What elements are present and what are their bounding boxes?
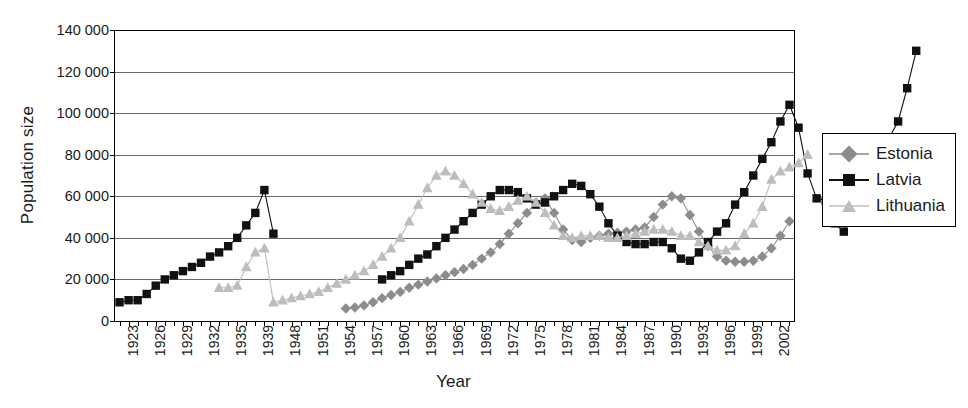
data-point: [476, 253, 486, 263]
chart-legend: Estonia Latvia Lithuania: [822, 133, 956, 227]
data-point: [485, 203, 496, 213]
x-tick-mark: [672, 321, 673, 326]
data-point: [450, 225, 458, 233]
x-tick-label: 1951: [315, 325, 331, 356]
x-tick-mark: [292, 321, 293, 326]
x-tick-mark: [400, 321, 401, 326]
x-tick-mark: [554, 321, 555, 326]
x-tick-label: 1939: [260, 325, 276, 356]
x-tick-mark: [192, 321, 193, 326]
data-point: [730, 257, 740, 267]
x-tick-mark: [228, 321, 229, 326]
data-point: [395, 287, 405, 297]
x-tick-mark: [337, 321, 338, 326]
data-point: [677, 254, 685, 262]
x-tick-mark: [717, 321, 718, 326]
data-point: [233, 234, 241, 242]
data-point: [251, 209, 259, 217]
data-point: [179, 267, 187, 275]
data-point: [206, 252, 214, 260]
x-tick-mark: [129, 321, 130, 326]
data-point: [161, 275, 169, 283]
x-axis-title: Year: [114, 372, 793, 392]
data-point: [794, 123, 802, 131]
data-point: [668, 244, 676, 252]
x-tick-mark: [627, 321, 628, 326]
x-tick-mark: [509, 321, 510, 326]
data-point: [413, 279, 423, 289]
legend-label: Lithuania: [876, 196, 945, 216]
legend-item-latvia: Latvia: [829, 167, 945, 193]
data-point: [784, 216, 794, 226]
data-point: [694, 226, 704, 236]
data-point: [568, 180, 576, 188]
y-tick-label: 20 000: [65, 271, 109, 287]
x-tick-mark: [518, 321, 519, 326]
data-point: [767, 138, 775, 146]
data-point: [784, 162, 795, 172]
data-point: [368, 297, 378, 307]
data-point: [549, 220, 560, 230]
x-tick-label: 1966: [450, 325, 466, 356]
x-tick-mark: [282, 321, 283, 326]
data-point: [468, 209, 476, 217]
x-tick-mark: [491, 321, 492, 326]
x-tick-mark: [355, 321, 356, 326]
x-tick-label: 1996: [722, 325, 738, 356]
x-tick-mark: [409, 321, 410, 326]
x-tick-mark: [771, 321, 772, 326]
x-tick-mark: [590, 321, 591, 326]
lithuania-marker-icon: [829, 199, 869, 213]
x-tick-label: 1963: [423, 325, 439, 356]
data-point: [350, 270, 361, 280]
x-tick-label: 1935: [233, 325, 249, 356]
legend-item-lithuania: Lithuania: [829, 193, 945, 219]
x-tick-mark: [255, 321, 256, 326]
data-point: [467, 260, 477, 270]
data-point: [170, 271, 178, 279]
data-point: [730, 241, 741, 251]
x-tick-mark: [536, 321, 537, 326]
x-tick-mark: [273, 321, 274, 326]
x-tick-mark: [545, 321, 546, 326]
plot-area: 020 00040 00060 00080 000100 000120 0001…: [114, 30, 795, 322]
x-tick-mark: [147, 321, 148, 326]
data-point: [313, 286, 324, 296]
data-point: [396, 267, 404, 275]
data-point: [631, 240, 639, 248]
x-tick-label: 1999: [749, 325, 765, 356]
data-point: [341, 274, 352, 284]
data-point: [115, 298, 123, 306]
x-tick-mark: [201, 321, 202, 326]
series-latvia: [115, 47, 920, 307]
data-point: [648, 224, 659, 234]
data-point: [232, 280, 243, 290]
data-point: [142, 290, 150, 298]
data-point: [386, 290, 396, 300]
data-point: [803, 169, 811, 177]
x-tick-mark: [690, 321, 691, 326]
x-tick-label: 1984: [613, 325, 629, 356]
x-tick-mark: [138, 321, 139, 326]
data-point: [496, 186, 504, 194]
data-point: [721, 256, 731, 266]
x-tick-mark: [364, 321, 365, 326]
x-tick-mark: [708, 321, 709, 326]
x-tick-mark: [436, 321, 437, 326]
x-tick-mark: [246, 321, 247, 326]
x-tick-mark: [663, 321, 664, 326]
data-point: [903, 84, 911, 92]
data-point: [242, 221, 250, 229]
data-point: [686, 257, 694, 265]
data-point: [749, 171, 757, 179]
data-point: [541, 198, 549, 206]
y-axis-title: Population size: [8, 0, 48, 330]
data-point: [676, 193, 686, 203]
x-tick-mark: [654, 321, 655, 326]
data-point: [577, 182, 585, 190]
x-tick-label: 1990: [668, 325, 684, 356]
data-point: [739, 257, 749, 267]
data-point: [713, 227, 721, 235]
data-point: [214, 282, 225, 292]
x-tick-label: 1993: [695, 325, 711, 356]
